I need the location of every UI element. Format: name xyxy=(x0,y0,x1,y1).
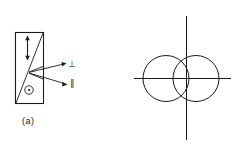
caption-panel-a: (a) xyxy=(22,116,35,126)
panel-a-drawing xyxy=(0,0,125,151)
perpendicular-ray xyxy=(29,62,67,72)
circle-with-dot-icon xyxy=(25,86,33,94)
arrowhead-perpendicular-icon xyxy=(61,62,66,66)
parallel-ray xyxy=(29,73,68,86)
double-headed-vertical-arrow-icon xyxy=(25,36,30,61)
arrowhead-parallel-icon xyxy=(62,82,68,86)
panel-b-drawing xyxy=(125,0,250,151)
panel-a: ⊥ ∥ (a) xyxy=(0,0,125,151)
perpendicular-polarization-label: ⊥ xyxy=(68,60,76,69)
panel-b: νy νx (b) xyxy=(125,0,250,151)
parallel-polarization-label: ∥ xyxy=(70,79,75,88)
figure-container: ⊥ ∥ (a) νy νx (b) xyxy=(0,0,250,151)
